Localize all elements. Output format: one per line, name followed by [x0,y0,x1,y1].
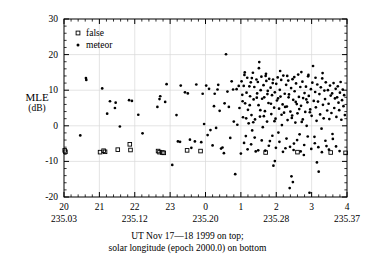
legend-markers [76,31,80,46]
x-tick-ut-3: 3 [297,202,327,212]
data-points [63,53,347,194]
plot-canvas [0,0,375,267]
x-tick-solar-longitude-235.20: 235.20 [184,214,228,224]
x-tick-ut-21: 21 [84,202,114,212]
x-tick-ut-2: 2 [261,202,291,212]
figure-caption: UT Nov 17—18 1999 on top; solar longitud… [0,231,375,254]
x-tick-solar-longitude-235.12: 235.12 [113,214,157,224]
y-tick-30: 30 [28,14,58,24]
y-tick--20: -20 [28,192,58,202]
x-tick-ut-0: 0 [191,202,221,212]
x-tick-ut-1: 1 [226,202,256,212]
y-tick--10: -10 [28,156,58,166]
x-tick-solar-longitude-235.03: 235.03 [42,214,86,224]
caption-line-1: UT Nov 17—18 1999 on top; [0,231,375,243]
y-tick-10: 10 [28,85,58,95]
x-tick-ut-23: 23 [155,202,185,212]
x-tick-ut-4: 4 [332,202,362,212]
x-tick-solar-longitude-235.28: 235.28 [254,214,298,224]
x-tick-solar-longitude-235.37: 235.37 [325,214,369,224]
legend-item-false-label: false [86,28,104,38]
scatter-plot-figure: MLE (dB) false meteor UT Nov 17—18 1999 … [0,0,375,267]
y-tick-0: 0 [28,121,58,131]
y-axis-label: MLE (dB) [14,92,60,114]
x-tick-ut-20: 20 [49,202,79,212]
caption-line-2: solar longitude (epoch 2000.0) on bottom [0,243,375,255]
x-tick-ut-22: 22 [120,202,150,212]
y-tick-20: 20 [28,50,58,60]
y-axis-label-unit: (dB) [14,103,60,114]
legend-item-meteor-label: meteor [86,40,112,50]
